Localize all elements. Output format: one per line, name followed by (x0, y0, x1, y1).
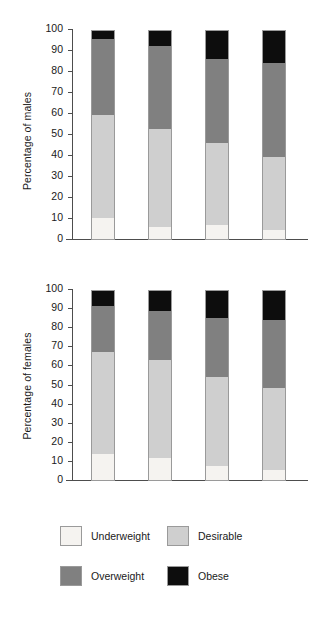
y-tick-label-females-40: 40 (33, 397, 63, 410)
y-axis-title-females: Percentage of females (21, 286, 33, 486)
bar-segment-females-1987-obese (149, 291, 171, 311)
y-tick-label-males-40: 40 (33, 148, 63, 161)
legend-row-2: OverweightObese (0, 566, 314, 596)
legend-item-overweight: Overweight (60, 566, 144, 586)
bar-segment-males-1995-obese (263, 31, 285, 63)
bar-segment-males-1991-obese (206, 31, 228, 59)
bar-segment-females-1995-underweight (263, 470, 285, 480)
y-tick-females-80: 80 (68, 327, 73, 328)
y-tick-label-females-90: 90 (33, 301, 63, 314)
y-tick-females-70: 70 (68, 346, 73, 347)
legend-swatch-obese (167, 566, 189, 586)
y-tick-males-40: 40 (68, 155, 73, 156)
y-tick-label-females-100: 100 (33, 282, 63, 295)
chart-legend: UnderweightDesirable OverweightObese (0, 522, 314, 612)
y-tick-males-70: 70 (68, 92, 73, 93)
bar-segment-females-1987-desirable (149, 360, 171, 458)
legend-swatch-desirable (167, 526, 189, 546)
stacked-bar-figure: Percentage of males 01020304050607080901… (0, 0, 314, 620)
bar-males-1987: 1987 (148, 30, 172, 240)
bar-segment-males-1980-desirable (92, 115, 114, 218)
y-tick-label-males-80: 80 (33, 64, 63, 77)
bar-segment-males-1987-underweight (149, 227, 171, 239)
bar-segment-females-1987-overweight (149, 311, 171, 360)
bar-segment-females-1987-underweight (149, 458, 171, 480)
legend-item-desirable: Desirable (167, 526, 242, 546)
y-tick-males-100: 100 (68, 29, 73, 30)
bar-segment-females-1980-overweight (92, 306, 114, 352)
bar-males-1980: 1980 (91, 30, 115, 240)
legend-swatch-underweight (60, 526, 82, 546)
bar-segment-males-1991-desirable (206, 143, 228, 225)
bar-segment-females-1980-underweight (92, 454, 114, 480)
y-tick-females-90: 90 (68, 308, 73, 309)
plot-area-females: 0102030405060708090100 1980198719911995 (72, 290, 308, 481)
y-tick-label-females-60: 60 (33, 358, 63, 371)
bar-females-1980: 1980 (91, 290, 115, 481)
bar-males-1995: 1995 (262, 30, 286, 240)
y-tick-label-females-20: 20 (33, 435, 63, 448)
bar-segment-females-1980-obese (92, 291, 114, 306)
plot-area-males: 0102030405060708090100 1980198719911995 (72, 30, 308, 240)
y-tick-label-males-20: 20 (33, 190, 63, 203)
bar-segment-females-1980-desirable (92, 352, 114, 453)
y-tick-males-90: 90 (68, 50, 73, 51)
y-tick-label-males-50: 50 (33, 127, 63, 140)
y-tick-males-0: 0 (68, 239, 73, 240)
bar-segment-females-1991-obese (206, 291, 228, 318)
legend-item-obese: Obese (167, 566, 229, 586)
bar-segment-males-1995-overweight (263, 63, 285, 157)
bar-females-1987: 1987 (148, 290, 172, 481)
y-tick-females-20: 20 (68, 442, 73, 443)
y-tick-label-males-30: 30 (33, 169, 63, 182)
bar-segment-females-1991-overweight (206, 318, 228, 377)
y-axis-line-males (72, 30, 73, 240)
y-tick-label-males-90: 90 (33, 43, 63, 56)
legend-swatch-overweight (60, 566, 82, 586)
bar-segment-males-1980-obese (92, 31, 114, 39)
legend-label-obese: Obese (198, 570, 229, 582)
bar-segment-females-1995-obese (263, 291, 285, 320)
y-tick-males-20: 20 (68, 197, 73, 198)
y-tick-label-males-0: 0 (33, 232, 63, 245)
legend-row-1: UnderweightDesirable (0, 526, 314, 556)
legend-item-underweight: Underweight (60, 526, 150, 546)
y-tick-label-males-70: 70 (33, 85, 63, 98)
y-tick-label-females-80: 80 (33, 320, 63, 333)
y-tick-label-females-30: 30 (33, 416, 63, 429)
y-tick-females-60: 60 (68, 365, 73, 366)
bar-segment-males-1995-underweight (263, 230, 285, 239)
bar-segment-males-1980-underweight (92, 218, 114, 239)
bar-segment-females-1991-underweight (206, 466, 228, 480)
y-tick-label-females-0: 0 (33, 473, 63, 486)
legend-label-underweight: Underweight (91, 530, 150, 542)
y-tick-males-60: 60 (68, 113, 73, 114)
y-tick-label-males-100: 100 (33, 22, 63, 35)
bar-segment-males-1980-overweight (92, 39, 114, 115)
bar-segment-males-1991-overweight (206, 59, 228, 143)
y-tick-males-80: 80 (68, 71, 73, 72)
bar-segment-males-1987-overweight (149, 46, 171, 129)
legend-label-desirable: Desirable (198, 530, 242, 542)
y-tick-females-0: 0 (68, 480, 73, 481)
bar-segment-males-1995-desirable (263, 157, 285, 230)
bar-segment-males-1987-obese (149, 31, 171, 46)
bar-segment-females-1995-desirable (263, 388, 285, 469)
y-axis-line-females (72, 290, 73, 481)
y-tick-females-100: 100 (68, 289, 73, 290)
y-tick-males-30: 30 (68, 176, 73, 177)
bar-segment-males-1991-underweight (206, 225, 228, 239)
y-tick-females-30: 30 (68, 423, 73, 424)
y-tick-females-50: 50 (68, 385, 73, 386)
bar-males-1991: 1991 (205, 30, 229, 240)
bar-females-1995: 1995 (262, 290, 286, 481)
bar-segment-females-1991-desirable (206, 377, 228, 466)
y-tick-females-10: 10 (68, 461, 73, 462)
chart-panel-females: Percentage of females 010203040506070809… (0, 274, 314, 504)
bar-segment-males-1987-desirable (149, 129, 171, 227)
y-tick-label-males-60: 60 (33, 106, 63, 119)
chart-panel-males: Percentage of males 01020304050607080901… (0, 14, 314, 274)
y-tick-males-50: 50 (68, 134, 73, 135)
y-tick-label-females-50: 50 (33, 378, 63, 391)
legend-label-overweight: Overweight (91, 570, 144, 582)
